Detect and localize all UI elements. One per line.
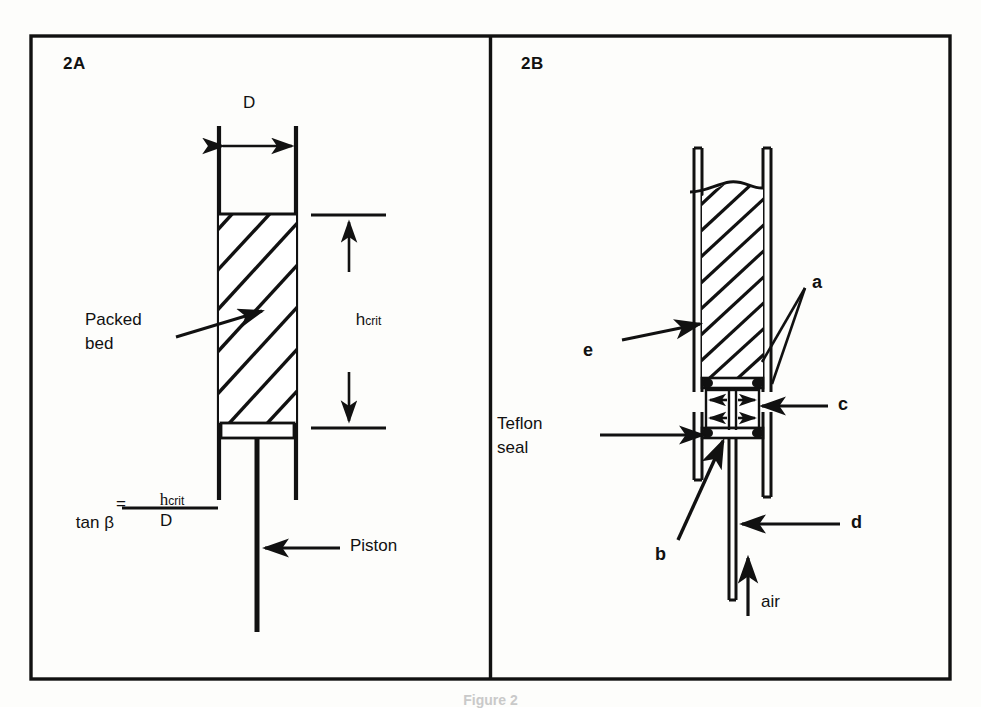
seal-assembly-2b	[701, 378, 764, 438]
air-label-2b: air	[761, 592, 780, 612]
figure-caption: Figure 2	[0, 692, 981, 708]
equation-denominator-2a: D	[160, 511, 172, 531]
equation-numerator-sub-2a: crit	[168, 494, 184, 508]
packed-bed-label-line2-2a: bed	[85, 334, 113, 354]
panel-2a-drawing	[122, 128, 386, 632]
callout-b-2b: b	[655, 544, 666, 565]
callout-e-2b: e	[583, 340, 593, 361]
diameter-label-2a: D	[243, 93, 255, 113]
equation-numerator-base-2a: h	[160, 490, 169, 509]
teflon-seal-label-line1-2b: Teflon	[497, 414, 542, 434]
callout-a-2b: a	[812, 272, 822, 293]
equation-lhs-2a: tan β	[58, 495, 114, 551]
packed-bed-label-line1-2a: Packed	[85, 310, 142, 330]
callout-d-2b: d	[851, 512, 862, 533]
callout-c-2b: c	[838, 394, 848, 415]
teflon-seal-label-line2-2b: seal	[497, 438, 528, 458]
hcrit-sub-2a: crit	[365, 314, 381, 328]
panel-id-2b: 2B	[521, 54, 544, 74]
packed-bed-2b	[676, 156, 782, 398]
piston-head-2a	[221, 423, 294, 438]
equation-tan-beta-2a: tan β	[76, 513, 114, 532]
piston-label-2a: Piston	[350, 536, 397, 556]
hcrit-label-2a: hcrit	[338, 292, 381, 348]
air-tube-2b	[729, 438, 736, 600]
panel-2b-drawing	[600, 148, 840, 616]
packed-bed-2a	[190, 200, 312, 500]
leader-e-2b	[622, 324, 700, 340]
hcrit-base-2a: h	[356, 310, 365, 329]
equation-relation-2a: =	[116, 494, 126, 514]
leader-a-2b	[762, 288, 805, 384]
figure-frame	[31, 36, 950, 679]
panel-id-2a: 2A	[63, 54, 86, 74]
